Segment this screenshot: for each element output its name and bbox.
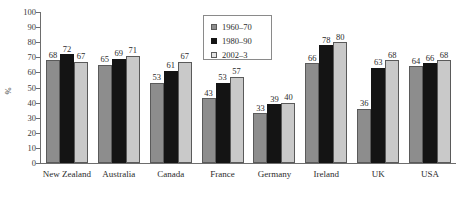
bar-group: 536167 [150,12,192,163]
y-axis-tick-label: 100 [2,8,36,17]
x-axis-category-label: Australia [93,170,145,179]
legend-item: 2002–3 [211,49,271,61]
bar-group: 646668 [409,12,451,163]
y-axis-tick-label: 30 [2,114,36,123]
x-axis-line [40,163,456,164]
bar [305,63,319,163]
bar-group: 687267 [46,12,88,163]
bar-group: 667880 [305,12,347,163]
bar-value-label: 71 [123,46,143,55]
y-axis-tick-label: 10 [2,144,36,153]
legend-item: 1960–70 [211,21,271,33]
x-axis-category-label: UK [352,170,404,179]
bar-value-label: 57 [227,67,247,76]
chart-legend: 1960–70 1980–90 2002–3 [203,15,272,60]
bar-value-label: 40 [278,93,298,102]
x-axis-category-label: New Zealand [41,170,93,179]
y-axis-tick-label: 60 [2,68,36,77]
y-axis-tick-label: 50 [2,84,36,93]
x-axis-category-label: Ireland [300,170,352,179]
y-axis-tick-label: 20 [2,129,36,138]
y-axis-tick-label: 40 [2,99,36,108]
y-axis-tick-label: 90 [2,23,36,32]
bar [216,83,230,163]
bar-value-label: 80 [330,33,350,42]
bar [385,60,399,163]
bar-group: 366368 [357,12,399,163]
bar [230,77,244,163]
bar [423,63,437,163]
bar [74,62,88,163]
legend-label: 1980–90 [222,37,252,46]
bar [164,71,178,163]
bar [98,65,112,163]
x-axis-category-label: USA [404,170,456,179]
legend-item: 1980–90 [211,35,271,47]
y-axis-tick-label: 0 [2,159,36,168]
bar [371,68,385,163]
bar [46,60,60,163]
bar [112,59,126,163]
bar [319,45,333,163]
bar [357,109,371,163]
x-axis-category-label: France [197,170,249,179]
bar [126,56,140,163]
x-axis-category-label: Germany [249,170,301,179]
bar-value-label: 67 [71,52,91,61]
bar-value-label: 67 [175,52,195,61]
bar [281,103,295,163]
legend-swatch-icon [211,24,217,30]
bar [333,42,347,163]
bar [60,54,74,163]
legend-swatch-icon [211,52,217,58]
bar [409,66,423,163]
bar [178,62,192,163]
bar-value-label: 68 [382,51,402,60]
legend-swatch-icon [211,38,217,44]
y-axis-tick [36,163,41,164]
x-axis-category-label: Canada [145,170,197,179]
bar-group: 656971 [98,12,140,163]
bar [267,104,281,163]
y-axis-tick-label: 70 [2,53,36,62]
bar [253,113,267,163]
legend-label: 1960–70 [222,23,252,32]
bar-chart: % 1009080706050403020100 687267656971536… [0,0,459,198]
bar [150,83,164,163]
bar [202,98,216,163]
bar-value-label: 68 [434,51,454,60]
bar [437,60,451,163]
y-axis-tick-label: 80 [2,38,36,47]
legend-label: 2002–3 [222,51,248,60]
